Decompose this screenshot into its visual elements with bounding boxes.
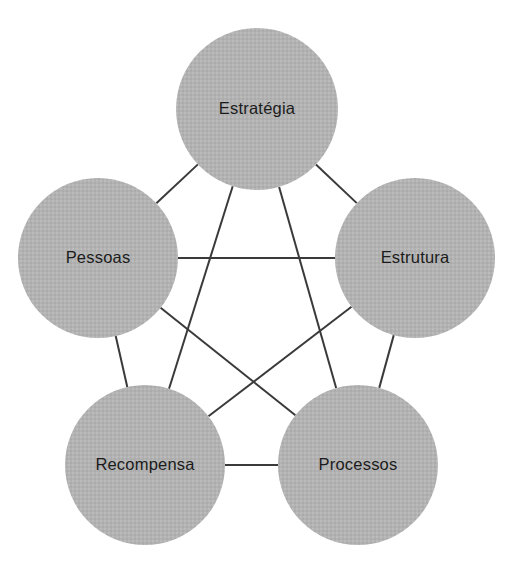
edge-estrategia-estrutura: [316, 165, 357, 204]
edge-estrategia-processos: [279, 187, 336, 388]
node-label-estrategia: Estratégia: [219, 99, 296, 117]
node-label-pessoas: Pessoas: [66, 248, 131, 266]
edge-estrutura-processos: [379, 335, 394, 388]
node-label-estrutura: Estrutura: [381, 248, 450, 266]
edge-pessoas-estrategia: [156, 164, 198, 203]
node-pessoas[interactable]: Pessoas: [18, 178, 178, 338]
node-estrutura[interactable]: Estrutura: [335, 178, 495, 338]
node-recompensa[interactable]: Recompensa: [65, 385, 225, 545]
edge-recompensa-pessoas: [116, 336, 128, 387]
node-processos[interactable]: Processos: [278, 385, 438, 545]
diagram-canvas: EstratégiaEstruturaProcessosRecompensaPe…: [0, 0, 513, 567]
node-label-processos: Processos: [319, 455, 398, 473]
nodes-layer: EstratégiaEstruturaProcessosRecompensaPe…: [18, 28, 495, 545]
pentagon-network-diagram: EstratégiaEstruturaProcessosRecompensaPe…: [0, 0, 513, 567]
node-label-recompensa: Recompensa: [95, 455, 195, 473]
node-estrategia[interactable]: Estratégia: [176, 28, 338, 190]
